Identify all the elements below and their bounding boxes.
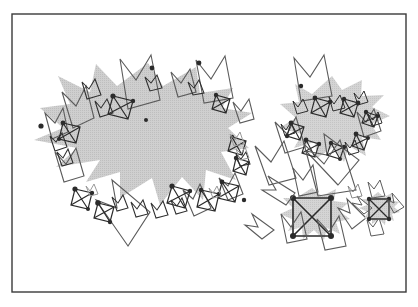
- vertex-node: [242, 198, 246, 202]
- fractal-figure-canvas: [0, 0, 418, 307]
- vertex-node: [285, 134, 289, 138]
- vertex-node: [342, 97, 346, 101]
- figure-root: [0, 0, 418, 307]
- vertex-node: [144, 118, 148, 122]
- vertex-node: [364, 110, 368, 114]
- vertex-node: [57, 137, 61, 141]
- vertex-node: [72, 186, 77, 191]
- vertex-node: [289, 121, 294, 126]
- vertex-node: [220, 180, 225, 185]
- vertex-node: [338, 157, 342, 161]
- vertex-node: [354, 132, 359, 137]
- vertex-node: [95, 200, 101, 206]
- vertex-node: [328, 100, 332, 104]
- vertex-node: [234, 156, 238, 160]
- vertex-node: [317, 142, 321, 146]
- vertex-node: [367, 197, 371, 201]
- vertex-node: [38, 123, 43, 128]
- vertex-node: [131, 99, 135, 103]
- vertex-node: [313, 96, 318, 101]
- vertex-node: [376, 114, 380, 118]
- vertex-node: [304, 138, 309, 143]
- vertex-node: [86, 207, 90, 211]
- vertex-node: [328, 195, 334, 201]
- vertex-node: [290, 233, 296, 239]
- vertex-node: [366, 136, 370, 140]
- vertex-node: [299, 84, 303, 88]
- vertex-node: [169, 183, 174, 188]
- vertex-node: [110, 93, 115, 98]
- vertex-node: [387, 217, 391, 221]
- vertex-node: [356, 101, 361, 106]
- vertex-node: [199, 188, 203, 192]
- vertex-node: [108, 220, 112, 224]
- vertex-node: [90, 191, 94, 195]
- vertex-node: [197, 61, 202, 66]
- vertex-node: [188, 189, 192, 193]
- vertex-node: [328, 233, 334, 239]
- vertex-node: [214, 93, 218, 97]
- vertex-node: [61, 121, 66, 126]
- vertex-node: [329, 141, 333, 145]
- vertex-node: [150, 66, 155, 71]
